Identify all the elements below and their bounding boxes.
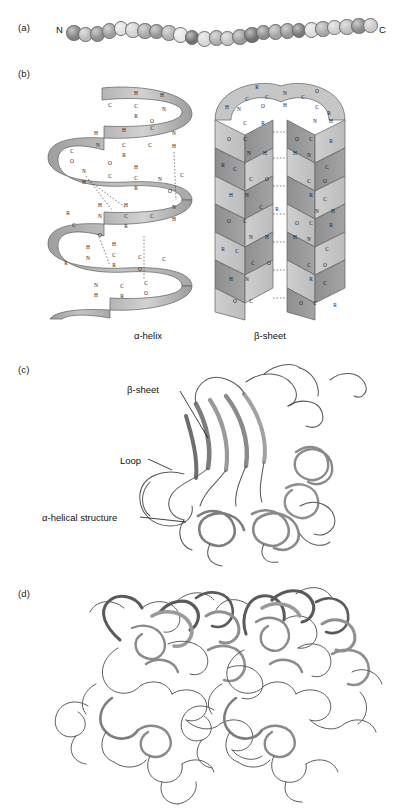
atom-label-h: H <box>160 93 164 98</box>
callout-alpha-helical-structure: α-helical structure <box>42 512 117 523</box>
atom-label-o: O <box>267 261 271 266</box>
callout-loop: Loop <box>120 455 141 466</box>
atom-label-n: N <box>98 214 102 219</box>
atom-label-c: C <box>134 176 138 181</box>
atom-label-h: H <box>293 151 297 156</box>
atom-label-n: N <box>307 237 311 242</box>
atom-label-c: C <box>323 281 327 286</box>
atom-label-h: H <box>122 128 126 133</box>
atom-label-h: H <box>263 151 267 156</box>
panel-b-label: (b) <box>18 68 30 79</box>
atom-label-c: C <box>162 257 166 262</box>
atom-label-r: R <box>309 277 313 282</box>
atom-label-c: C <box>243 137 247 142</box>
atom-label-r: R <box>64 261 68 266</box>
atom-label-c: C <box>150 126 154 131</box>
atom-label-c: C <box>108 103 112 108</box>
protein-structure-figure: (a) N C (b) <box>0 0 396 811</box>
alpha-helix-caption: α-helix <box>108 330 188 341</box>
amino-acid-bead-chain <box>64 15 379 45</box>
atom-label-h: H <box>293 235 297 240</box>
alpha-helix-diagram: CHCRHNOCHHNCRCNHCOONHCHCRNCOHNRCCHROCNHH… <box>40 84 200 319</box>
atom-label-h: H <box>229 193 233 198</box>
atom-label-o: O <box>265 177 269 182</box>
atom-label-n: N <box>82 169 86 174</box>
quaternary-ribbon-diagram <box>0 572 396 811</box>
atom-label-c: C <box>138 255 142 260</box>
tertiary-ribbon-diagram <box>0 356 396 568</box>
atom-label-c: C <box>259 205 263 210</box>
atom-label-c: C <box>235 249 239 254</box>
atom-label-n: N <box>307 153 311 158</box>
atom-label-h: H <box>124 203 128 208</box>
atom-label-o: O <box>295 221 299 226</box>
atom-label-r: R <box>309 193 313 198</box>
atom-label-h: H <box>112 242 116 247</box>
atom-label-c: C <box>134 104 138 109</box>
atom-label-r: R <box>221 163 225 168</box>
c-terminus-label: C <box>379 24 386 35</box>
atom-label-h: H <box>134 165 138 170</box>
atom-label-c: C <box>72 223 76 228</box>
atom-label-r: R <box>122 153 126 158</box>
atom-label-r: R <box>275 207 279 212</box>
atom-label-c: C <box>180 173 184 178</box>
atom-label-h: H <box>225 105 229 110</box>
atom-label-h: H <box>82 180 86 185</box>
atom-label-o: O <box>150 119 154 124</box>
n-terminus-label: N <box>56 24 63 35</box>
atom-label-h: H <box>265 235 269 240</box>
atom-label-r: R <box>329 223 333 228</box>
atom-label-c: C <box>309 221 313 226</box>
atom-label-o: O <box>323 263 327 268</box>
atom-label-n: N <box>158 177 162 182</box>
atom-label-o: O <box>138 267 142 272</box>
atom-label-r: R <box>66 211 70 216</box>
atom-label-c: C <box>144 281 148 286</box>
atom-label-r: R <box>134 186 138 191</box>
atom-label-o: O <box>98 233 102 238</box>
atom-label-r: R <box>134 114 138 119</box>
atom-label-o: O <box>261 104 265 109</box>
atom-label-h: H <box>172 217 176 222</box>
atom-label-c: C <box>243 219 247 224</box>
atom-label-h: H <box>331 209 335 214</box>
atom-label-r: R <box>329 139 333 144</box>
amino-acid-bead <box>363 18 378 33</box>
atom-label-r: R <box>333 303 337 308</box>
atom-label-c: C <box>265 95 269 100</box>
atom-label-h: H <box>94 131 98 136</box>
atom-label-c: C <box>148 143 152 148</box>
atom-label-o: O <box>299 301 303 306</box>
atom-label-h: H <box>283 103 287 108</box>
atom-label-n: N <box>94 283 98 288</box>
atom-label-r: R <box>120 294 124 299</box>
atom-label-r: R <box>261 121 265 126</box>
beta-sheet-atom-labels: RCCNCOHNOHCRCRNHOCOCRNHHNRCCCOCOHNRCCRNH… <box>205 80 355 320</box>
atom-label-c: C <box>70 149 74 154</box>
atom-label-r: R <box>221 247 225 252</box>
atom-label-r: R <box>112 263 116 268</box>
atom-label-r: R <box>327 111 331 116</box>
panel-a-primary-structure: (a) N C <box>0 0 396 58</box>
atom-label-c: C <box>245 97 249 102</box>
atom-label-r: R <box>124 224 128 229</box>
atom-label-c: C <box>307 263 311 268</box>
atom-label-c: C <box>313 301 317 306</box>
atom-label-h: H <box>86 245 90 250</box>
atom-label-n: N <box>315 209 319 214</box>
atom-label-o: O <box>144 291 148 296</box>
alpha-helix-atom-labels: CHCRHNOCHHNCRCNHCOONHCHCRNCOHNRCCHROCNHH… <box>40 84 200 319</box>
atom-label-c: C <box>108 174 112 179</box>
atom-label-c: C <box>112 253 116 258</box>
beta-sheet-caption: β-sheet <box>230 330 310 341</box>
atom-label-o: O <box>233 299 237 304</box>
atom-label-n: N <box>313 119 317 124</box>
atom-label-o: O <box>295 137 299 142</box>
atom-label-c: C <box>315 105 319 110</box>
atom-label-n: N <box>172 131 176 136</box>
atom-label-o: O <box>227 219 231 224</box>
panel-d-quaternary-structure: (d) <box>0 572 396 811</box>
atom-label-n: N <box>249 235 253 240</box>
atom-label-c: C <box>323 197 327 202</box>
